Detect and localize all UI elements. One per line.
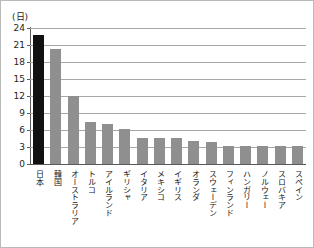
y-tick-label: 15 <box>14 75 25 84</box>
bar <box>33 35 44 164</box>
y-tick-mark <box>27 28 30 29</box>
bar <box>223 146 234 164</box>
x-axis-label: フィンランド <box>224 170 232 217</box>
gridline: 18 <box>30 62 306 63</box>
gridline: 21 <box>30 45 306 46</box>
bar <box>188 141 199 164</box>
bar <box>206 142 217 164</box>
y-tick-label: 3 <box>19 143 25 152</box>
y-tick-mark <box>27 164 30 165</box>
y-axis-unit-label: (日) <box>12 13 28 22</box>
bar <box>240 146 251 164</box>
y-tick-label: 24 <box>14 24 25 33</box>
plot-area: 03691215182124 <box>30 28 306 164</box>
bar <box>154 138 165 164</box>
y-tick-mark <box>27 62 30 63</box>
x-axis-label: ギリシャ <box>121 170 129 201</box>
x-axis-label: イタリア <box>138 170 146 201</box>
gridline: 24 <box>30 28 306 29</box>
x-axis-label: アイルランド <box>104 170 112 217</box>
x-axis-label: イギリス <box>173 170 181 201</box>
bar <box>171 138 182 164</box>
y-tick-mark <box>27 130 30 131</box>
x-axis-label: スペイン <box>293 170 301 201</box>
x-axis-label: トルコ <box>86 170 94 193</box>
bar <box>50 49 61 164</box>
bar <box>137 138 148 164</box>
x-axis-label: スロバキア <box>276 170 284 209</box>
y-tick-mark <box>27 96 30 97</box>
bar <box>292 146 303 164</box>
x-axis-label: オランダ <box>190 170 198 201</box>
x-axis-label: ハンガリー <box>242 170 250 209</box>
y-tick-mark <box>27 113 30 114</box>
y-tick-mark <box>27 45 30 46</box>
y-tick-label: 12 <box>14 92 25 101</box>
gridline: 15 <box>30 79 306 80</box>
chart-figure: (日) 03691215182124 日本韓国オーストラリアトルコアイルランドギ… <box>0 0 314 248</box>
y-tick-label: 0 <box>19 160 25 169</box>
bar <box>85 122 96 165</box>
y-tick-mark <box>27 147 30 148</box>
x-axis-label: 韓国 <box>52 170 60 186</box>
y-tick-label: 9 <box>19 109 25 118</box>
bar <box>257 146 268 164</box>
y-tick-label: 18 <box>14 58 25 67</box>
bar <box>102 124 113 164</box>
bar <box>68 96 79 164</box>
x-axis-label: オーストラリア <box>69 170 77 225</box>
bar <box>119 129 130 164</box>
x-axis-label: 日本 <box>35 170 43 186</box>
x-axis-label: ノルウェー <box>259 170 267 209</box>
y-tick-label: 21 <box>14 41 25 50</box>
bar <box>275 146 286 164</box>
y-tick-mark <box>27 79 30 80</box>
y-tick-label: 6 <box>19 126 25 135</box>
x-axis-label: メキシコ <box>155 170 163 201</box>
x-axis-label: スウェーデン <box>207 170 215 217</box>
gridline: 0 <box>30 164 306 165</box>
